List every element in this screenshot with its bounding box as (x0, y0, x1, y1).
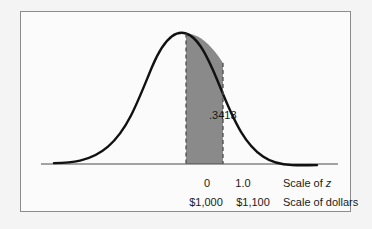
figure-root: .3413 0 1.0 $1,000 $1,100 Scale of z Sca… (0, 0, 372, 229)
shaded-area-value-label: .3413 (209, 110, 237, 121)
z-axis-tick-1: 1.0 (231, 178, 255, 189)
dollar-axis-tick-0: $1,000 (181, 197, 231, 208)
dollar-axis-title: Scale of dollars (283, 197, 358, 208)
z-axis-title: Scale of z (283, 178, 331, 189)
z-axis-title-symbol: z (326, 177, 332, 189)
z-axis-tick-0: 0 (199, 178, 215, 189)
dollar-axis-tick-1: $1,100 (228, 197, 278, 208)
z-axis-title-prefix: Scale of (283, 177, 326, 189)
figure-frame: .3413 0 1.0 $1,000 $1,100 Scale of z Sca… (20, 11, 351, 212)
